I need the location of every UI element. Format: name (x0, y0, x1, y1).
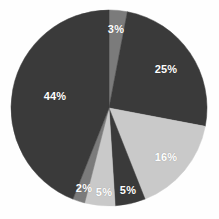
pie-slice-label: 5% (96, 186, 112, 198)
pie-slice-label: 16% (155, 151, 178, 163)
pie-slice-group (11, 10, 207, 206)
pie-slice-label: 44% (44, 90, 67, 102)
pie-chart: 3%25%16%5%5%2%44% (0, 0, 219, 219)
pie-slice-label: 3% (108, 23, 124, 35)
pie-slice-label: 2% (76, 182, 92, 194)
pie-slice-label: 25% (155, 63, 178, 75)
pie-slice-label: 5% (120, 184, 136, 196)
